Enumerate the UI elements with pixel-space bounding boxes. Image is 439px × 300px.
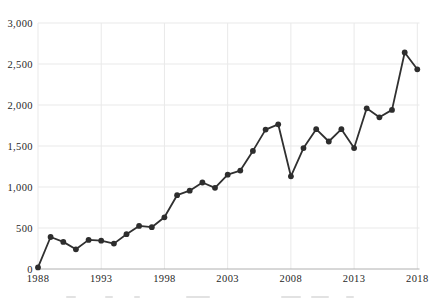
data-point-1990 — [60, 239, 66, 245]
x-tick-label-2008: 2008 — [280, 273, 303, 284]
x-tick-label-2018: 2018 — [406, 273, 429, 284]
data-point-2001 — [200, 180, 206, 186]
x-tick-label-1998: 1998 — [153, 273, 176, 284]
x-tick-labels: 1988199319982003200820132018 — [27, 273, 429, 284]
data-point-1998 — [162, 214, 168, 220]
data-point-2006 — [263, 127, 269, 133]
y-tick-label-2000: 2,000 — [7, 100, 33, 111]
data-point-2004 — [237, 168, 243, 174]
data-point-1995 — [124, 231, 130, 237]
data-point-2003 — [225, 172, 231, 178]
data-point-1992 — [86, 237, 92, 243]
y-tick-label-1000: 1,000 — [7, 182, 33, 193]
data-point-2005 — [250, 148, 256, 154]
data-point-2013 — [351, 145, 357, 151]
data-point-1989 — [48, 234, 54, 240]
caption-fragment — [281, 296, 301, 298]
data-point-1997 — [149, 224, 155, 230]
data-point-1999 — [174, 192, 180, 198]
data-point-1996 — [136, 223, 142, 229]
x-tick-label-1993: 1993 — [90, 273, 113, 284]
data-point-2017 — [402, 50, 408, 56]
data-point-2009 — [301, 145, 307, 151]
data-point-2018 — [414, 66, 420, 72]
y-tick-label-2500: 2,500 — [7, 59, 33, 70]
caption-fragment — [311, 296, 329, 298]
data-point-2007 — [275, 121, 281, 127]
caption-fragment — [134, 296, 140, 298]
data-point-2002 — [212, 185, 218, 191]
caption-fragment — [186, 296, 210, 298]
y-tick-labels: 05001,0001,5002,0002,5003,000 — [7, 18, 33, 275]
data-point-1988 — [35, 265, 41, 271]
data-point-2008 — [288, 173, 294, 179]
x-tick-label-1988: 1988 — [27, 273, 50, 284]
caption-fragment — [346, 296, 354, 298]
y-tick-label-500: 500 — [16, 223, 33, 234]
cropped-caption-remnant — [0, 295, 439, 300]
data-point-2014 — [364, 105, 370, 111]
data-point-1991 — [73, 246, 79, 252]
x-tick-label-2003: 2003 — [216, 273, 239, 284]
data-point-1994 — [111, 241, 117, 247]
caption-fragment — [66, 296, 76, 298]
caption-fragment — [105, 296, 113, 298]
data-point-1993 — [98, 238, 104, 244]
chart-container: 05001,0001,5002,0002,5003,000 1988199319… — [0, 0, 439, 300]
x-tick-label-2013: 2013 — [343, 273, 366, 284]
data-point-2012 — [339, 126, 345, 132]
y-tick-label-3000: 3,000 — [7, 18, 33, 29]
line-chart: 05001,0001,5002,0002,5003,000 1988199319… — [0, 0, 439, 300]
data-point-2016 — [389, 107, 395, 113]
data-point-2015 — [377, 114, 383, 120]
data-point-2010 — [313, 126, 319, 132]
data-point-2000 — [187, 188, 193, 194]
y-tick-label-1500: 1,500 — [7, 141, 33, 152]
data-point-2011 — [326, 139, 332, 145]
y-gridlines — [38, 23, 420, 228]
